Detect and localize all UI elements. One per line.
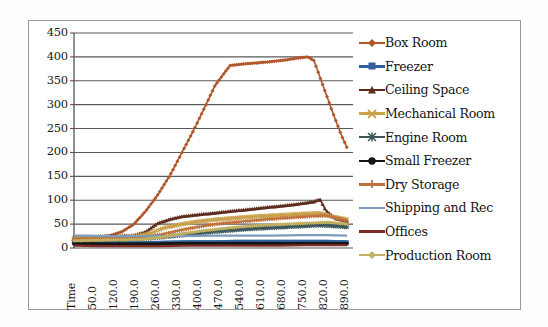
legend-item-offices[interactable]: Offices <box>359 220 519 244</box>
x-tick-label: 50.0 <box>87 286 98 310</box>
y-axis-tick-labels: 050100150200250300350400450 <box>29 33 72 248</box>
y-tick-label: 0 <box>61 242 68 254</box>
y-tick-label: 250 <box>47 123 68 135</box>
legend-item-label: Offices <box>385 225 428 238</box>
x-tick-label: 400.0 <box>192 280 203 311</box>
legend-item-label: Shipping and Rec <box>385 201 493 214</box>
legend-glyph-x-icon <box>365 107 379 121</box>
y-tick-label: 400 <box>47 51 68 63</box>
y-tick-label: 350 <box>47 75 68 87</box>
legend-marker-icon <box>359 248 385 262</box>
legend-item-engine-room[interactable]: Engine Room <box>359 125 519 149</box>
legend-item-ceiling-space[interactable]: Ceiling Space <box>359 78 519 102</box>
series-shipping-and-rec <box>74 235 347 236</box>
y-tick-label: 200 <box>47 147 68 159</box>
legend-glyph-triangle-icon <box>365 83 379 97</box>
legend-item-mechanical-room[interactable]: Mechanical Room <box>359 102 519 126</box>
legend-item-dry-storage[interactable]: Dry Storage <box>359 173 519 197</box>
plot-area <box>74 33 353 248</box>
x-tick-label: 540.0 <box>234 280 245 311</box>
x-tick-label: 820.0 <box>318 280 329 311</box>
x-tick-label: 890.0 <box>339 280 350 311</box>
legend-glyph-circle-icon <box>365 154 379 168</box>
legend-item-label: Freezer <box>385 60 433 73</box>
legend-marker-icon <box>359 154 385 168</box>
legend-item-label: Production Room <box>385 249 491 262</box>
legend-marker-icon <box>359 107 385 121</box>
legend-glyph-diamond-icon <box>365 248 379 262</box>
x-tick-label: 470.0 <box>213 280 224 311</box>
chart-frame: 050100150200250300350400450 Time50.0120.… <box>28 20 521 310</box>
chart-legend: Box RoomFreezerCeiling SpaceMechanical R… <box>359 31 519 267</box>
legend-item-shipping-and-rec[interactable]: Shipping and Rec <box>359 196 519 220</box>
legend-marker-icon <box>359 36 385 50</box>
legend-glyph-square-icon <box>365 59 379 73</box>
x-tick-label: 120.0 <box>108 280 119 311</box>
legend-glyph-plus-icon <box>365 177 379 191</box>
x-tick-label: 260.0 <box>150 280 161 311</box>
legend-item-label: Box Room <box>385 36 447 49</box>
legend-marker-icon <box>359 83 385 97</box>
legend-item-production-room[interactable]: Production Room <box>359 243 519 267</box>
legend-glyph-asterisk-icon <box>365 130 379 144</box>
legend-item-small-freezer[interactable]: Small Freezer <box>359 149 519 173</box>
series-line <box>74 245 347 246</box>
y-tick-label: 150 <box>47 171 68 183</box>
x-tick-label: 610.0 <box>255 280 266 311</box>
chart-screenshot: 050100150200250300350400450 Time50.0120.… <box>0 0 548 327</box>
x-tick-label: Time <box>66 283 77 310</box>
legend-marker-icon <box>359 130 385 144</box>
x-tick-label: 330.0 <box>171 280 182 311</box>
legend-item-label: Dry Storage <box>385 178 459 191</box>
y-tick-label: 300 <box>47 99 68 111</box>
legend-marker-icon <box>359 59 385 73</box>
plot-svg <box>74 33 353 248</box>
x-tick-label: 750.0 <box>297 280 308 311</box>
series-line <box>74 235 347 236</box>
y-tick-label: 50 <box>54 218 68 230</box>
x-tick-label: 190.0 <box>129 280 140 311</box>
legend-item-label: Small Freezer <box>385 154 471 167</box>
legend-item-label: Mechanical Room <box>385 107 495 120</box>
x-axis-tick-labels: Time50.0120.0190.0260.0330.0400.0470.054… <box>74 250 353 310</box>
legend-marker-icon <box>359 225 385 239</box>
x-tick-label: 680.0 <box>276 280 287 311</box>
legend-item-box-room[interactable]: Box Room <box>359 31 519 55</box>
legend-item-label: Ceiling Space <box>385 83 469 96</box>
legend-item-freezer[interactable]: Freezer <box>359 55 519 79</box>
legend-marker-icon <box>359 177 385 191</box>
y-tick-label: 450 <box>47 27 68 39</box>
legend-marker-icon <box>359 201 385 215</box>
y-tick-label: 100 <box>47 194 68 206</box>
series-offices <box>74 245 347 246</box>
legend-glyph-diamond-icon <box>365 36 379 50</box>
legend-item-label: Engine Room <box>385 131 467 144</box>
